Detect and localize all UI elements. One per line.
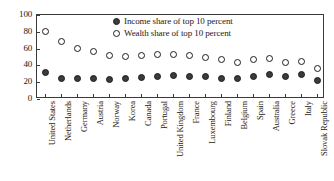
legend-label-wealth-share: Wealth share of top 10 percent xyxy=(124,28,231,39)
x-label-greece: Greece xyxy=(288,101,297,124)
wealth-share-point xyxy=(74,45,81,52)
x-tick-mark xyxy=(301,94,302,97)
income-share-point xyxy=(122,75,129,82)
income-share-point xyxy=(90,75,97,82)
y-tick-label-0: 0 xyxy=(8,94,32,103)
wealth-share-point xyxy=(122,53,129,60)
x-label-france: France xyxy=(192,101,201,124)
y-tick-mark xyxy=(37,15,40,16)
income-share-point xyxy=(218,75,225,82)
y-tick-mark xyxy=(37,82,40,83)
y-tick-label-20: 20 xyxy=(8,77,32,86)
x-tick-mark xyxy=(285,94,286,97)
wealth-share-point xyxy=(170,51,177,58)
x-tick-mark xyxy=(45,94,46,97)
y-tick-mark xyxy=(37,32,40,33)
x-tick-mark xyxy=(173,94,174,97)
income-share-point xyxy=(266,71,273,78)
x-tick-mark xyxy=(125,94,126,97)
chart-legend: Income share of top 10 percent Wealth sh… xyxy=(113,15,233,39)
wealth-share-point xyxy=(298,58,305,65)
x-tick-mark xyxy=(253,94,254,97)
y-tick-mark xyxy=(37,65,40,66)
x-tick-mark xyxy=(189,94,190,97)
x-label-slovak-republic: Slovak Republic xyxy=(320,101,329,156)
x-tick-mark xyxy=(61,94,62,97)
x-label-austria: Austria xyxy=(96,101,105,125)
x-tick-mark xyxy=(221,94,222,97)
wealth-share-point xyxy=(186,52,193,59)
x-label-belgium: Belgium xyxy=(240,101,249,130)
x-label-finland: Finland xyxy=(224,101,233,126)
y-tick-mark xyxy=(37,49,40,50)
x-label-korea: Korea xyxy=(128,101,137,121)
x-tick-mark xyxy=(205,94,206,97)
legend-label-income-share: Income share of top 10 percent xyxy=(124,16,233,27)
income-share-point xyxy=(74,75,81,82)
x-label-italy: Italy xyxy=(304,101,313,116)
wealth-share-point xyxy=(218,56,225,63)
wealth-share-point xyxy=(314,65,321,72)
y-tick-label-40: 40 xyxy=(8,60,32,69)
y-tick-label-80: 80 xyxy=(8,27,32,36)
x-tick-mark xyxy=(237,94,238,97)
x-label-canada: Canada xyxy=(144,101,153,126)
income-share-point xyxy=(282,73,289,80)
y-tick-label-60: 60 xyxy=(8,44,32,53)
wealth-share-point xyxy=(42,28,49,35)
x-tick-mark xyxy=(77,94,78,97)
wealth-share-point xyxy=(202,54,209,61)
legend-item-income-share: Income share of top 10 percent xyxy=(113,15,233,27)
income-share-point xyxy=(170,72,177,79)
chart-container: 020406080100 United StatesNetherlandsGer… xyxy=(0,0,334,181)
y-tick-label-100: 100 xyxy=(8,10,32,19)
wealth-share-point xyxy=(106,52,113,59)
x-tick-mark xyxy=(109,94,110,97)
x-label-norway: Norway xyxy=(112,101,121,128)
filled-circle-icon xyxy=(113,18,120,25)
legend-item-wealth-share: Wealth share of top 10 percent xyxy=(113,27,233,39)
income-share-point xyxy=(154,73,161,80)
wealth-share-point xyxy=(58,38,65,45)
wealth-share-point xyxy=(266,55,273,62)
x-tick-mark xyxy=(317,94,318,97)
x-label-spain: Spain xyxy=(256,101,265,120)
x-label-united-states: United States xyxy=(48,101,57,145)
x-label-portugal: Portugal xyxy=(160,101,169,129)
hollow-circle-icon xyxy=(113,30,120,37)
x-label-netherlands: Netherlands xyxy=(64,101,73,141)
x-label-germany: Germany xyxy=(80,101,89,132)
income-share-point xyxy=(58,75,65,82)
x-tick-mark xyxy=(157,94,158,97)
income-share-point xyxy=(298,71,305,78)
y-tick-mark xyxy=(37,99,40,100)
wealth-share-point xyxy=(138,52,145,59)
wealth-share-point xyxy=(154,51,161,58)
wealth-share-point xyxy=(250,56,257,63)
income-share-point xyxy=(106,76,113,83)
x-tick-mark xyxy=(141,94,142,97)
x-label-luxembourg: Luxembourg xyxy=(208,101,217,144)
income-share-point xyxy=(202,73,209,80)
x-label-united-kingdom: United Kingdom xyxy=(176,101,185,157)
wealth-share-point xyxy=(282,59,289,66)
income-share-point xyxy=(250,73,257,80)
income-share-point xyxy=(314,77,321,84)
x-label-australia: Australia xyxy=(272,101,281,131)
income-share-point xyxy=(42,69,49,76)
wealth-share-point xyxy=(90,48,97,55)
income-share-point xyxy=(138,74,145,81)
x-tick-mark xyxy=(269,94,270,97)
x-tick-mark xyxy=(93,94,94,97)
income-share-point xyxy=(186,73,193,80)
wealth-share-point xyxy=(234,59,241,66)
income-share-point xyxy=(234,75,241,82)
